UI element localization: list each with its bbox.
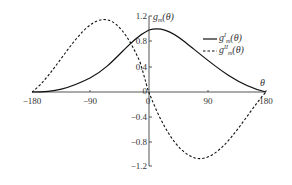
x-tick-labels: −180 −90 0 90 180 [23, 96, 274, 106]
svg-text:−1.2: −1.2 [131, 161, 147, 171]
svg-text:−90: −90 [83, 96, 98, 106]
svg-text:−180: −180 [23, 96, 42, 106]
legend-label-gI: gIm(θ) [219, 32, 243, 44]
legend: gIm(θ) gIIm(θ) [203, 32, 245, 56]
legend-label-gII: gIIm(θ) [219, 44, 245, 56]
svg-text:−0.8: −0.8 [131, 137, 148, 147]
svg-text:−0.4: −0.4 [131, 112, 148, 122]
svg-text:0: 0 [146, 96, 151, 106]
svg-text:90: 90 [204, 96, 214, 106]
y-axis-label: gm(θ) [153, 11, 175, 23]
x-axis-label: θ [260, 77, 265, 88]
svg-text:0: 0 [143, 86, 148, 96]
chart: −180 −90 0 90 180 1.2 0.8 0.4 0 −0.4 −0.… [0, 0, 292, 185]
y-tick-labels: 1.2 0.8 0.4 0 −0.4 −0.8 −1.2 [131, 11, 148, 171]
svg-text:1.2: 1.2 [136, 11, 147, 21]
